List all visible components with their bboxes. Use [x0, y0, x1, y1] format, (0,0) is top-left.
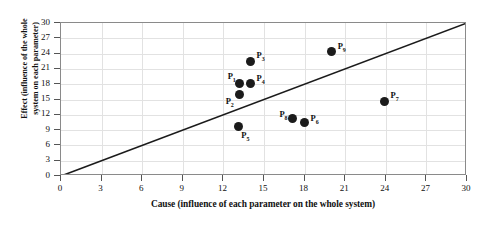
x-axis-tick	[141, 175, 142, 181]
data-point-p7[interactable]	[380, 97, 389, 106]
x-axis-tick-label: 15	[248, 183, 278, 193]
data-point-label-p3: P3	[256, 50, 264, 62]
y-axis-tick-label: 24	[20, 47, 50, 57]
gridline-vertical	[102, 23, 103, 174]
y-axis-tick-label: 6	[20, 139, 50, 149]
x-axis-tick	[222, 175, 223, 181]
data-point-label-p7: P7	[390, 90, 398, 102]
data-point-p9[interactable]	[327, 47, 336, 56]
x-axis-tick-label: 30	[451, 183, 481, 193]
plot-area: P1P2P3P4P5P6P7P8P9	[60, 22, 466, 175]
x-axis-tick	[101, 175, 102, 181]
x-axis-tick	[182, 175, 183, 181]
data-point-label-p9: P9	[338, 41, 346, 53]
gridline-horizontal	[61, 115, 465, 116]
data-point-p4[interactable]	[246, 79, 255, 88]
x-axis-tick-label: 24	[370, 183, 400, 193]
gridline-horizontal	[61, 145, 465, 146]
x-axis-tick-label: 9	[167, 183, 197, 193]
x-axis-tick-label: 18	[289, 183, 319, 193]
x-axis-tick	[385, 175, 386, 181]
y-axis-tick-label: 0	[20, 170, 50, 180]
x-axis-tick	[304, 175, 305, 181]
y-axis-tick-label: 30	[20, 17, 50, 27]
scatter-chart: Effect (influence of the whole system on…	[0, 0, 484, 226]
x-axis-tick-label: 12	[207, 183, 237, 193]
y-axis-tick-label: 21	[20, 62, 50, 72]
x-axis-title: Cause (influence of each parameter on th…	[60, 199, 466, 209]
gridline-horizontal	[61, 130, 465, 131]
x-axis-tick	[263, 175, 264, 181]
x-axis-tick-label: 6	[126, 183, 156, 193]
x-axis-tick	[466, 175, 467, 181]
data-point-label-p8: P8	[279, 109, 287, 121]
gridline-horizontal	[61, 38, 465, 39]
gridline-vertical	[142, 23, 143, 174]
gridline-vertical	[264, 23, 265, 174]
data-point-label-p5: P5	[241, 130, 249, 142]
data-point-label-p6: P6	[311, 113, 319, 125]
y-axis-tick-label: 18	[20, 78, 50, 88]
y-axis-tick-label: 3	[20, 154, 50, 164]
y-axis-tick-label: 27	[20, 32, 50, 42]
gridline-vertical	[183, 23, 184, 174]
data-point-p3[interactable]	[246, 57, 255, 66]
x-axis-tick	[344, 175, 345, 181]
data-point-p6[interactable]	[300, 118, 309, 127]
gridline-vertical	[426, 23, 427, 174]
x-axis-tick-label: 3	[86, 183, 116, 193]
data-point-label-p1: P1	[228, 71, 236, 83]
x-axis-tick	[425, 175, 426, 181]
y-axis-tick-label: 12	[20, 108, 50, 118]
data-point-p8[interactable]	[288, 114, 297, 123]
data-point-p1[interactable]	[235, 79, 244, 88]
data-point-label-p4: P4	[256, 73, 264, 85]
y-axis-tick-label: 9	[20, 124, 50, 134]
gridline-horizontal	[61, 100, 465, 101]
x-axis-tick	[60, 175, 61, 181]
data-point-label-p2: P2	[226, 96, 234, 108]
x-axis-tick-label: 27	[410, 183, 440, 193]
data-point-p2[interactable]	[235, 90, 244, 99]
x-axis-tick-label: 21	[329, 183, 359, 193]
gridline-vertical	[223, 23, 224, 174]
gridline-vertical	[305, 23, 306, 174]
gridline-horizontal	[61, 161, 465, 162]
gridline-horizontal	[61, 69, 465, 70]
x-axis-tick-label: 0	[45, 183, 75, 193]
y-axis-tick-label: 15	[20, 93, 50, 103]
